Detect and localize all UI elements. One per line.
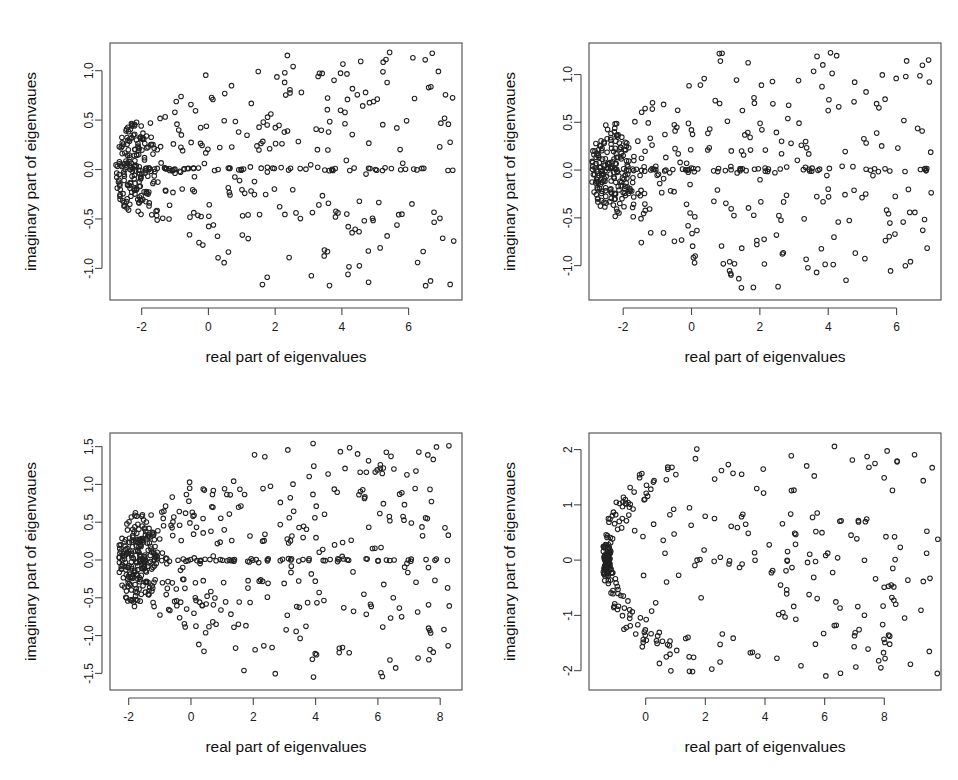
data-point [215,234,220,239]
data-point [233,119,238,124]
data-point [201,487,206,492]
data-point [147,204,152,209]
data-point [217,145,222,150]
data-point [649,609,654,614]
data-point [415,610,420,615]
data-point [760,128,765,133]
x-tick-label: 0 [205,320,212,334]
data-point [609,179,614,184]
data-point [649,631,654,636]
data-point [779,151,784,156]
y-tick-label: 0.5 [82,514,96,531]
data-point [762,237,767,242]
data-point [294,629,299,634]
data-point [133,181,138,186]
data-point [395,223,400,228]
data-point [332,78,337,83]
data-point [778,167,783,172]
data-point [420,534,425,539]
data-point [244,623,249,628]
data-point [748,135,753,140]
data-point [223,600,228,605]
data-point [883,640,888,645]
data-point [781,200,786,205]
data-point [693,563,698,568]
data-point [395,126,400,131]
data-point [885,449,890,454]
data-point [308,163,313,168]
data-point [222,528,227,533]
data-point [855,537,860,542]
data-point [222,260,227,265]
data-point [771,102,776,107]
data-point [209,589,214,594]
data-point [248,165,253,170]
data-point [799,143,804,148]
data-point [325,96,330,101]
data-point [229,612,234,617]
data-point [398,147,403,152]
data-point [233,646,238,651]
data-point [222,118,227,123]
data-point [716,166,721,171]
y-tick-label: 0 [561,556,575,563]
data-point [289,570,294,575]
y-tick-label: -1.0 [82,625,96,646]
data-point [719,244,724,249]
data-point [155,218,160,223]
x-axis-title: real part of eigenvalues [205,738,366,755]
data-point [317,590,322,595]
data-point [315,165,320,170]
data-point [412,96,417,101]
data-point [229,538,234,543]
data-point [901,220,906,225]
data-point [176,128,181,133]
data-point [888,269,893,274]
x-tick-label: 0 [688,320,695,334]
data-point [357,229,362,234]
data-point [188,215,193,220]
data-point [789,141,794,146]
data-point [718,660,723,665]
x-axis-title: real part of eigenvalues [684,348,845,365]
data-point [170,495,175,500]
data-point [421,249,426,254]
data-point [203,557,208,562]
data-point [364,172,369,177]
data-point [639,216,644,221]
y-axis-title: imaginary part of eigenvaues [501,72,518,271]
data-point [248,534,253,539]
data-point [384,450,389,455]
x-tick-label: -2 [123,710,134,724]
data-point [327,283,332,288]
data-point [322,254,327,259]
data-point [165,586,170,591]
data-point [712,516,717,521]
data-point [272,187,277,192]
data-point [893,232,898,237]
data-point [688,147,693,152]
data-point [287,515,292,520]
data-point [639,240,644,245]
data-point [718,59,723,64]
data-point [611,203,616,208]
data-point [391,595,396,600]
data-point [686,223,691,228]
data-point [936,537,941,542]
data-point [649,487,654,492]
data-point [866,647,871,652]
data-point [296,139,301,144]
data-point [794,617,799,622]
data-point [193,580,198,585]
data-point [399,615,404,620]
data-point [298,216,303,221]
x-tick-label: 8 [437,710,444,724]
data-point [187,480,192,485]
data-point [920,129,925,134]
data-point [161,516,166,521]
data-point [301,557,306,562]
data-point [177,509,182,514]
data-point [447,604,452,609]
data-point [913,210,918,215]
y-tick-label: 0.0 [82,161,96,178]
